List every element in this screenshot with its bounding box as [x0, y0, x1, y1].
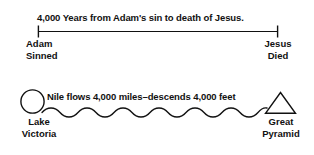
circle-icon — [21, 90, 44, 113]
timeline-right-label: Jesus Died — [255, 38, 301, 62]
timeline-left-label-line1: Adam — [26, 38, 58, 50]
timeline-left-label-line2: Sinned — [26, 50, 58, 62]
timeline-left-label: Adam Sinned — [26, 38, 58, 62]
nile-right-label-line1: Great — [252, 116, 310, 128]
timeline-right-label-line2: Died — [255, 50, 301, 62]
triangle-icon — [266, 93, 296, 114]
nile-diagram — [16, 86, 300, 120]
nile-left-label-line1: Lake — [11, 116, 67, 128]
nile-left-label-line2: Victoria — [11, 128, 67, 140]
timeline-right-label-line1: Jesus — [255, 38, 301, 50]
comparison-figure: 4,000 Years from Adam's sin to death of … — [0, 0, 314, 155]
river-wave-icon — [42, 108, 267, 117]
nile-right-label-line2: Pyramid — [252, 128, 310, 140]
nile-right-label: Great Pyramid — [252, 116, 310, 140]
nile-left-label: Lake Victoria — [11, 116, 67, 140]
timeline-axis — [30, 22, 286, 42]
